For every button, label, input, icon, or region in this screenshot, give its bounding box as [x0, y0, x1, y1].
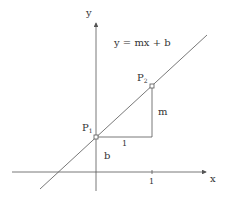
point-p2-label: P2	[137, 73, 148, 83]
run-label: 1	[122, 140, 127, 148]
rise-label: m	[158, 107, 167, 117]
equation-label: y = mx + b	[114, 38, 171, 48]
point-p1-label: P1	[82, 123, 93, 133]
x-axis-label: x	[210, 174, 216, 184]
slope-intercept-diagram: y x 1 y = mx + b P1 P2 1 m b	[0, 0, 228, 202]
point-p2-marker	[150, 84, 154, 88]
point-p1-marker	[94, 135, 98, 139]
y-axis-label: y	[86, 8, 92, 18]
diagram-graphics	[0, 0, 228, 202]
regression-line	[40, 35, 207, 189]
x-tick-label: 1	[149, 178, 154, 186]
intercept-label: b	[104, 151, 110, 161]
